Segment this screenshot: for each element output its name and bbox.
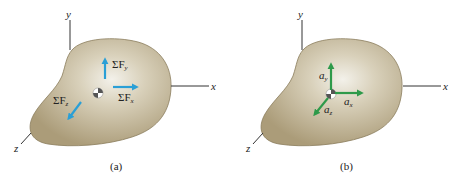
center-of-mass-icon: [93, 88, 103, 98]
y-axis-label: y: [65, 8, 71, 20]
y-axis-label: y: [297, 8, 303, 20]
center-of-mass-icon: [326, 89, 336, 99]
z-axis-label: z: [13, 142, 19, 154]
panel-a: y x z ΣFy ΣFx ΣFz (a): [13, 8, 216, 173]
z-axis-line: [253, 133, 263, 144]
x-axis-label: x: [210, 80, 216, 92]
panel-a-caption: (a): [110, 160, 123, 173]
panel-b-caption: (b): [340, 160, 353, 173]
z-axis-label: z: [245, 142, 251, 154]
z-axis-line: [21, 133, 31, 144]
free-body-diagram: y x z ΣFy ΣFx ΣFz (a) y: [0, 0, 462, 180]
panel-b: y x z ay ax az (b): [245, 8, 448, 173]
x-axis-label: x: [442, 80, 448, 92]
